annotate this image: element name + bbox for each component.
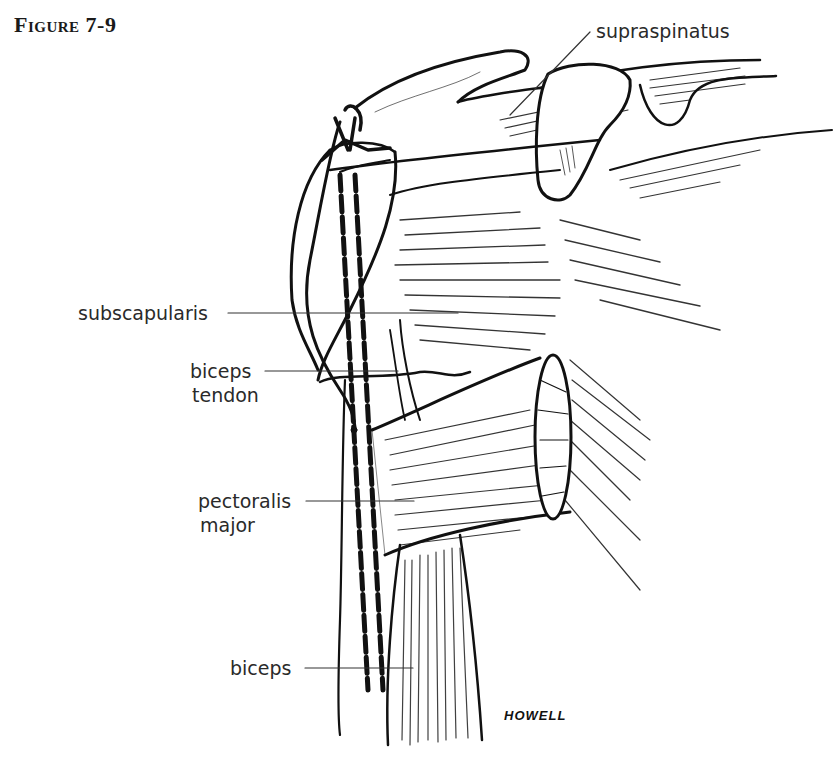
label-subscapularis: subscapularis — [78, 302, 208, 324]
label-pectoralis-major-line1: pectoralis — [198, 490, 291, 512]
label-pectoralis-major-line2: major — [200, 514, 255, 536]
label-biceps-tendon-line1: biceps — [190, 360, 251, 382]
label-supraspinatus: supraspinatus — [596, 20, 730, 42]
shoulder-anatomy-illustration — [0, 0, 836, 766]
label-biceps: biceps — [230, 657, 291, 679]
coracoid — [536, 64, 630, 200]
acromion — [355, 51, 528, 108]
artist-signature: HOWELL — [504, 708, 566, 723]
humerus-shaft — [339, 380, 346, 735]
label-biceps-tendon-line2: tendon — [192, 384, 259, 406]
dashed-line-right — [355, 175, 383, 690]
biceps-muscle — [387, 545, 400, 745]
